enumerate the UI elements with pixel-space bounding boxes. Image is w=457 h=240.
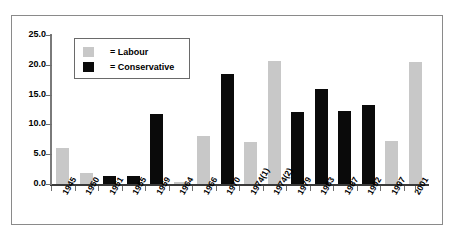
y-axis-tick-label-wrap: 15.0 xyxy=(12,90,46,91)
legend-label-conservative: = Conservative xyxy=(110,61,174,73)
x-axis-tick xyxy=(51,186,52,191)
bar-19742 xyxy=(268,61,281,184)
y-axis-tick-label: 5.0 xyxy=(16,149,46,158)
y-axis-tick-label: 25.0 xyxy=(16,30,46,39)
x-axis-tick xyxy=(169,186,170,191)
chart-legend: = Labour = Conservative xyxy=(74,38,190,79)
x-axis-tick xyxy=(286,186,287,191)
y-axis-tick-label-wrap: 20.0 xyxy=(12,60,46,61)
y-axis-tick-label: 20.0 xyxy=(16,60,46,69)
x-axis-tick xyxy=(239,186,240,191)
x-axis-tick xyxy=(357,186,358,191)
x-axis-tick xyxy=(263,186,264,191)
x-axis-tick xyxy=(404,186,405,191)
x-axis-tick xyxy=(333,186,334,191)
bar-1959 xyxy=(150,114,163,184)
y-axis-tick-label-wrap: 5.0 xyxy=(12,149,46,150)
y-axis-tick-label: 0.0 xyxy=(16,179,46,188)
bar-1970 xyxy=(221,74,234,184)
y-axis-tick-label: 15.0 xyxy=(16,90,46,99)
x-axis-tick xyxy=(415,186,416,191)
x-axis-tick xyxy=(192,186,193,191)
legend-label-labour: = Labour xyxy=(110,46,148,58)
y-axis-tick-label-wrap: 25.0 xyxy=(12,30,46,31)
legend-swatch-labour xyxy=(83,47,94,57)
x-axis-tick xyxy=(122,186,123,191)
bar-1983 xyxy=(315,89,328,184)
bar-1992 xyxy=(362,105,375,184)
x-axis-tick xyxy=(145,186,146,191)
y-axis-tick-label-wrap: 0.0 xyxy=(12,179,46,180)
x-axis-tick xyxy=(98,186,99,191)
x-axis-tick xyxy=(310,186,311,191)
y-axis-tick-label: 10.0 xyxy=(16,119,46,128)
x-axis-tick xyxy=(216,186,217,191)
chart-figure: 25.020.015.010.05.00.0 19451950195119551… xyxy=(11,15,443,225)
x-axis-tick xyxy=(75,186,76,191)
bar-1987 xyxy=(338,111,351,184)
y-axis-tick-label-wrap: 10.0 xyxy=(12,119,46,120)
y-axis-tick xyxy=(46,184,52,185)
legend-swatch-conservative xyxy=(83,62,94,72)
x-axis-tick xyxy=(380,186,381,191)
bar-2001 xyxy=(409,62,422,184)
